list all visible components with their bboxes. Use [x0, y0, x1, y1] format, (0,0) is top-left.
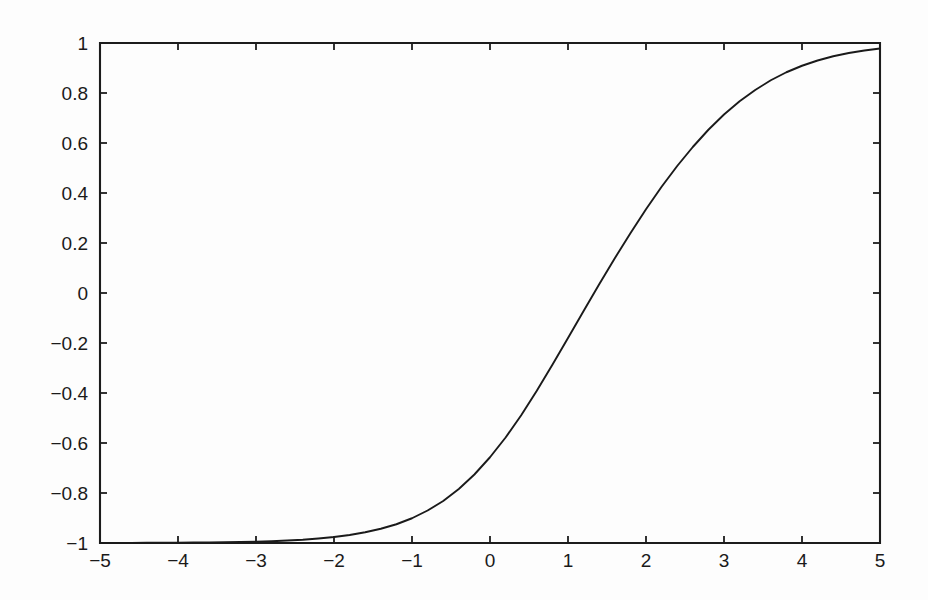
- x-tick-label-4: −1: [401, 550, 423, 571]
- x-axis-ticks: [178, 43, 802, 543]
- x-tick-label-6: 1: [563, 550, 574, 571]
- y-tick-label-6: 0.2: [62, 233, 88, 254]
- y-tick-label-5: 0: [77, 283, 88, 304]
- y-tick-label-10: 1: [77, 33, 88, 54]
- x-tick-label-1: −4: [167, 550, 189, 571]
- y-axis-ticks: [100, 93, 880, 493]
- y-tick-label-7: 0.4: [62, 183, 89, 204]
- x-tick-label-3: −2: [323, 550, 345, 571]
- y-tick-label-2: −0.6: [50, 433, 88, 454]
- x-tick-label-2: −3: [245, 550, 267, 571]
- y-tick-label-9: 0.8: [62, 83, 88, 104]
- y-tick-label-8: 0.6: [62, 133, 88, 154]
- y-tick-label-3: −0.4: [50, 383, 88, 404]
- y-axis-tick-labels: −1−0.8−0.6−0.4−0.200.20.40.60.81: [50, 33, 88, 554]
- x-tick-label-9: 4: [797, 550, 808, 571]
- axes-box: [100, 43, 880, 543]
- x-tick-label-0: −5: [89, 550, 111, 571]
- chart-figure: −5−4−3−2−1012345 −1−0.8−0.6−0.4−0.200.20…: [0, 0, 928, 600]
- x-tick-label-10: 5: [875, 550, 886, 571]
- x-tick-label-8: 3: [719, 550, 730, 571]
- x-tick-label-7: 2: [641, 550, 652, 571]
- x-axis-tick-labels: −5−4−3−2−1012345: [89, 550, 885, 571]
- y-tick-label-0: −1: [66, 533, 88, 554]
- axes-frame: [100, 43, 880, 543]
- x-tick-label-5: 0: [485, 550, 496, 571]
- data-series-line: [100, 49, 880, 544]
- y-tick-label-4: −0.2: [50, 333, 88, 354]
- y-tick-label-1: −0.8: [50, 483, 88, 504]
- series-sigmoid: [100, 49, 880, 544]
- plot-canvas: −5−4−3−2−1012345 −1−0.8−0.6−0.4−0.200.20…: [0, 0, 928, 600]
